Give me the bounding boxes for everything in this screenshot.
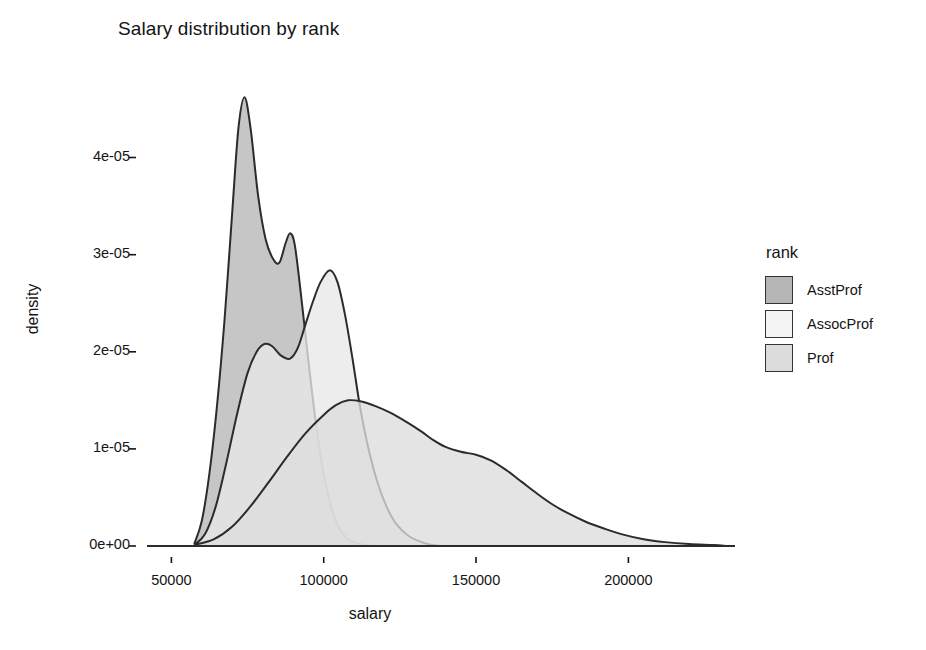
x-tick-label: 150000 bbox=[452, 572, 500, 588]
series-layer bbox=[147, 97, 735, 546]
x-tick-label: 50000 bbox=[151, 572, 191, 588]
legend-item-label: AsstProf bbox=[807, 282, 862, 298]
legend-item-assocprof[interactable]: AssocProf bbox=[765, 308, 915, 340]
legend-swatch-icon bbox=[765, 276, 793, 304]
y-tick-label: 4e-05 bbox=[60, 148, 130, 164]
y-tick-label: 1e-05 bbox=[60, 439, 130, 455]
legend-item-label: AssocProf bbox=[807, 316, 873, 332]
legend-item-label: Prof bbox=[807, 350, 834, 366]
legend-swatch-icon bbox=[765, 344, 793, 372]
x-tick-label: 100000 bbox=[300, 572, 348, 588]
y-tick-label: 2e-05 bbox=[60, 342, 130, 358]
legend-swatch-icon bbox=[765, 310, 793, 338]
legend-item-asstprof[interactable]: AsstProf bbox=[765, 274, 915, 306]
y-tick-label: 0e+00 bbox=[60, 536, 130, 552]
x-axis-title: salary bbox=[0, 605, 740, 623]
y-axis-title: density bbox=[24, 254, 42, 364]
y-tick-label: 3e-05 bbox=[60, 245, 130, 261]
x-tick-label: 200000 bbox=[604, 572, 652, 588]
legend-item-prof[interactable]: Prof bbox=[765, 342, 915, 374]
legend-items: AsstProfAssocProfProf bbox=[765, 274, 915, 374]
chart-page: Salary distribution by rank 0e+001e-052e… bbox=[0, 0, 926, 650]
legend: rank AsstProfAssocProfProf bbox=[765, 243, 915, 376]
legend-title: rank bbox=[766, 243, 915, 262]
